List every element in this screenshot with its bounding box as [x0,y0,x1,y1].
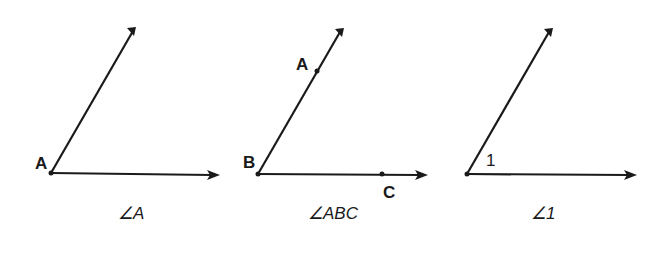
upper-ray [467,32,549,174]
angle-caption: ∠A [118,204,144,223]
figure-angle-abc: A B C ∠ABC [243,28,428,223]
vertex-label: A [35,154,47,173]
point-a-label: A [296,55,308,74]
angle-caption: ∠ABC [308,204,359,223]
vertex-point [256,172,261,177]
horizontal-ray [51,173,212,175]
vertex-point [49,171,54,176]
figure-angle-a: A ∠A [35,27,220,223]
upper-ray [258,32,340,174]
horizontal-ray [258,174,420,175]
point-a [315,69,320,74]
arrowhead-icon [335,28,344,37]
figure-angle-1: 1 ∠1 [465,28,638,223]
vertex-point [465,172,470,177]
point-c-label: C [383,183,395,202]
angle-naming-diagram: A ∠A A B C ∠ABC 1 ∠1 [0,0,666,254]
vertex-label: B [243,153,255,172]
arrowhead-icon [544,28,553,37]
upper-ray [51,31,133,173]
horizontal-ray [467,174,629,175]
point-c [380,172,385,177]
interior-angle-label: 1 [486,151,495,170]
angle-caption: ∠1 [531,204,555,223]
